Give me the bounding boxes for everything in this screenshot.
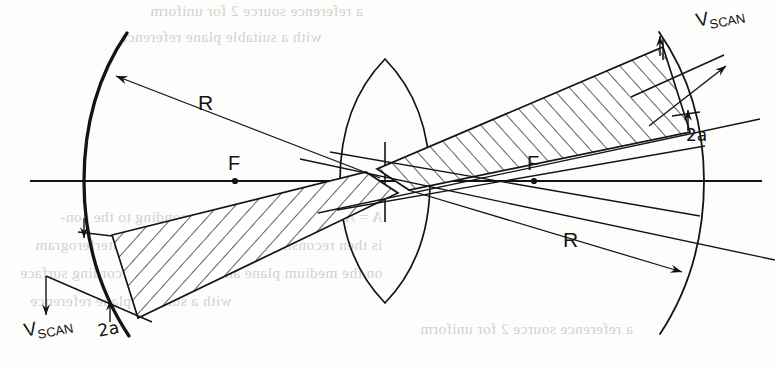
focus-label-right: F: [527, 152, 539, 175]
aperture-label-bottom: 2a: [96, 317, 121, 341]
beam-bundle-lower-left: [100, 160, 420, 335]
focal-point-left: [232, 178, 238, 184]
aperture-label-top: 2a: [686, 125, 707, 145]
radius-line-left: [116, 76, 380, 178]
radius-label-right: R: [563, 228, 579, 252]
figure-canvas: a reference source 2 for uniform with a …: [0, 0, 775, 368]
focal-point-right: [531, 178, 537, 184]
aperture-tick-bottom-upper: [78, 232, 112, 236]
diagram-svg: [0, 0, 775, 368]
radius-label-left: R: [198, 91, 214, 115]
focus-label-left: F: [228, 152, 240, 175]
